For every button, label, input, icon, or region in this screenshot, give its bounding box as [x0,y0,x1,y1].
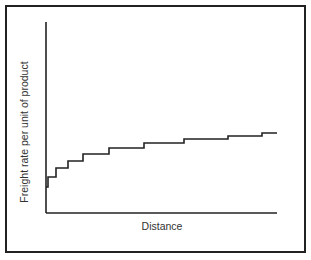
freight-rate-step-line [46,133,277,187]
x-axis-label: Distance [142,220,183,232]
y-axis-label: Freight rate per unit of product [18,61,30,202]
